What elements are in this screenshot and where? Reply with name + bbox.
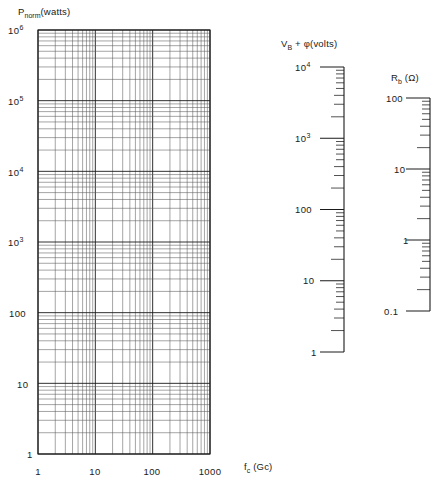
right-scale-axis: [406, 98, 430, 311]
middle-scale-axis: [320, 67, 344, 352]
main-plot-grid: [38, 30, 210, 454]
figure-root: Pnorm(watts) 106 105 104 103 100 10 1 1 …: [0, 0, 448, 486]
figure-vector-layer: [0, 0, 448, 486]
